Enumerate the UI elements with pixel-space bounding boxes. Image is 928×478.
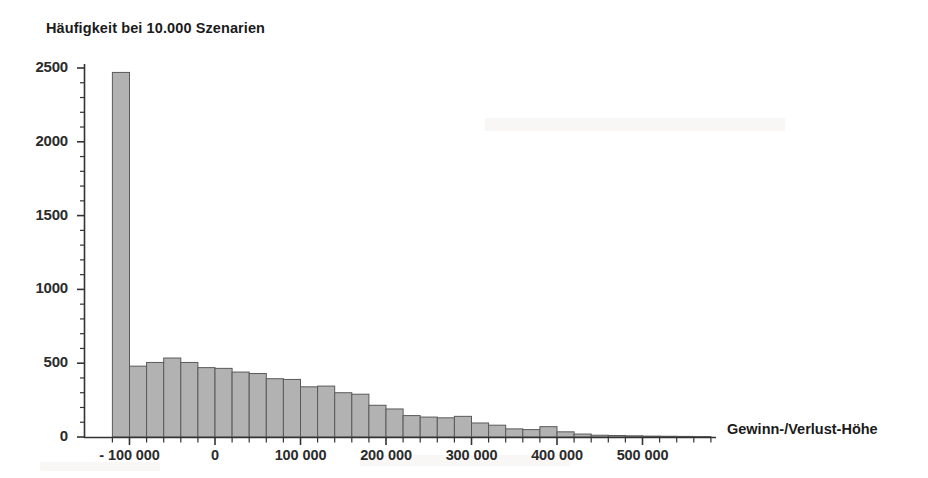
histogram-bar [574, 434, 591, 437]
histogram-bar [181, 362, 198, 437]
bars-group [112, 72, 710, 437]
histogram-bar [489, 425, 506, 437]
histogram-bar [198, 368, 215, 437]
histogram-bar [318, 386, 335, 437]
histogram-bar [164, 358, 181, 437]
y-axis-tick-label: 2500 [12, 58, 68, 75]
histogram-bar [420, 417, 437, 437]
histogram-bar [386, 409, 403, 437]
histogram-bar [540, 427, 557, 437]
x-axis-tick-label: 100 000 [275, 447, 327, 463]
x-axis-tick-label: 200 000 [360, 447, 412, 463]
histogram-bar [147, 362, 164, 437]
x-axis-title: Gewinn-/Verlust-Höhe [727, 421, 878, 437]
x-axis-tick-label: 0 [211, 447, 219, 463]
histogram-bar [130, 366, 147, 437]
y-axis-tick-label: 2000 [12, 132, 68, 149]
histogram-bar [369, 405, 386, 437]
histogram-bar [557, 432, 574, 437]
histogram-bar [454, 416, 471, 437]
x-axis-tick-label: 500 000 [617, 447, 669, 463]
plot-area: 05001000150020002500- 100 0000100 000200… [0, 0, 928, 478]
histogram-bar [352, 394, 369, 437]
y-axis-tick-label: 0 [12, 427, 68, 444]
x-axis-tick-label: 300 000 [446, 447, 498, 463]
x-axis-tick-label: - 100 000 [99, 447, 159, 463]
y-axis-tick-label: 500 [12, 353, 68, 370]
histogram-bar [283, 379, 300, 437]
histogram-bar [437, 418, 454, 437]
histogram-bar [215, 368, 232, 437]
y-axis-tick-label: 1000 [12, 279, 68, 296]
histogram-bar [266, 379, 283, 437]
histogram-bar [472, 423, 489, 437]
histogram-bar [403, 416, 420, 437]
histogram-svg [0, 0, 928, 478]
histogram-bar [301, 387, 318, 437]
histogram-bar [112, 72, 129, 437]
histogram-bar [249, 374, 266, 437]
histogram-bar [506, 429, 523, 437]
histogram-bar [335, 393, 352, 437]
y-axis-tick-label: 1500 [12, 206, 68, 223]
x-axis-tick-label: 400 000 [531, 447, 583, 463]
histogram-figure: Häufigkeit bei 10.000 Szenarien 05001000… [0, 0, 928, 478]
histogram-bar [232, 372, 249, 437]
histogram-bar [523, 430, 540, 437]
